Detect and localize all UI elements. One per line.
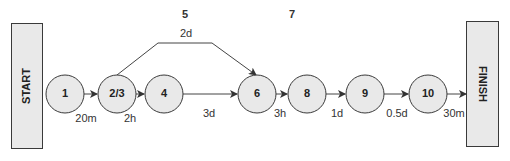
- node-1-label: 1: [62, 87, 68, 99]
- duration-3h: 3h: [274, 107, 286, 119]
- node-4-label: 4: [161, 87, 168, 99]
- node-2-3-label: 2/3: [109, 87, 124, 99]
- activity-7-label: 7: [289, 8, 295, 20]
- edge-2-3-to-6: [117, 43, 256, 75]
- network-diagram: START FINISH 1 2/3 4 6 8 9: [0, 0, 510, 161]
- duration-30m: 30m: [443, 107, 464, 119]
- node-2-3: 2/3: [98, 75, 136, 113]
- node-1: 1: [46, 75, 84, 113]
- node-10: 10: [409, 75, 447, 113]
- duration-1d: 1d: [331, 107, 343, 119]
- duration-2h: 2h: [124, 112, 136, 124]
- node-8-label: 8: [304, 87, 310, 99]
- node-6: 6: [238, 75, 276, 113]
- duration-2d: 2d: [180, 27, 192, 39]
- finish-label: FINISH: [477, 66, 489, 102]
- duration-3d: 3d: [203, 107, 215, 119]
- node-6-label: 6: [254, 87, 260, 99]
- node-9-label: 9: [362, 87, 368, 99]
- node-10-label: 10: [422, 87, 434, 99]
- node-4: 4: [145, 75, 183, 113]
- activity-5-label: 5: [182, 8, 188, 20]
- finish-terminal: FINISH: [467, 22, 499, 147]
- start-label: START: [20, 68, 32, 104]
- start-terminal: START: [12, 24, 43, 149]
- edges: [84, 43, 466, 94]
- duration-20m: 20m: [75, 112, 96, 124]
- duration-0-5d: 0.5d: [386, 107, 407, 119]
- node-8: 8: [288, 75, 326, 113]
- node-9: 9: [346, 75, 384, 113]
